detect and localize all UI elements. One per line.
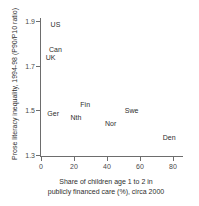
x-tick-label: 40 — [97, 163, 117, 170]
data-point-label: US — [51, 21, 61, 28]
x-axis-title: Share of children age 1 to 2 in publicly… — [20, 177, 192, 196]
x-tick-mark — [140, 157, 141, 161]
data-point-label: UK — [46, 54, 56, 61]
data-point-label: Ger — [47, 110, 59, 117]
plot-area — [41, 14, 183, 155]
data-point-label: Can — [49, 46, 62, 53]
x-tick-mark — [173, 157, 174, 161]
y-axis-title: Prose literacy inequality, 1994-98 (P90/… — [11, 8, 18, 160]
scatter-plot-figure: 1.91.71.51.3 020406080 Prose literacy in… — [0, 0, 199, 206]
y-tick-label: 1.7 — [19, 63, 35, 70]
data-point-label: Nor — [105, 120, 116, 127]
y-tick-label: 1.9 — [19, 18, 35, 25]
y-tick-mark — [36, 155, 41, 156]
data-point-label: Den — [163, 134, 176, 141]
x-tick-mark — [74, 157, 75, 161]
data-point-label: Fin — [80, 101, 90, 108]
x-tick-mark — [41, 157, 42, 161]
x-tick-label: 60 — [130, 163, 150, 170]
data-point-label: Nth — [70, 114, 81, 121]
data-point-label: Swe — [125, 107, 139, 114]
x-tick-label: 0 — [31, 163, 51, 170]
y-tick-label: 1.5 — [19, 107, 35, 114]
y-tick-label: 1.3 — [19, 152, 35, 159]
x-tick-label: 20 — [64, 163, 84, 170]
x-tick-label: 80 — [163, 163, 183, 170]
x-tick-mark — [107, 157, 108, 161]
x-axis-title-line-2: publicly financed care (%), circa 2000 — [20, 187, 192, 197]
x-axis-title-line-1: Share of children age 1 to 2 in — [20, 177, 192, 187]
x-axis-line — [41, 156, 183, 157]
